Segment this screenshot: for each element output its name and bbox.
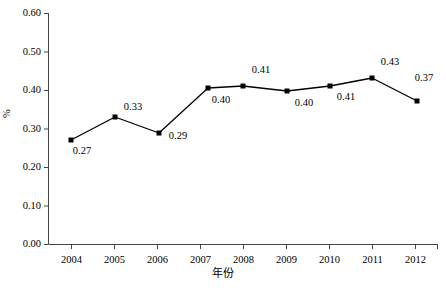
x-tick-label-2012: 2012 <box>394 255 437 266</box>
y-tick-label-040: 0.40 <box>11 85 41 96</box>
y-tick-label-020: 0.20 <box>11 162 41 173</box>
data-label-2009: 0.40 <box>288 98 320 109</box>
y-tick-label-000: 0.00 <box>11 239 41 250</box>
y-tick-label-050: 0.50 <box>11 47 41 58</box>
x-tick-label-2009: 2009 <box>265 255 308 266</box>
y-axis-ticks <box>44 14 49 245</box>
data-point-marker <box>370 76 375 81</box>
x-tick-label-2007: 2007 <box>179 255 222 266</box>
x-tick-label-2004: 2004 <box>50 255 93 266</box>
data-label-2005: 0.33 <box>117 102 149 113</box>
line-chart: 0.60 0.50 0.40 0.30 0.20 0.10 0.00 2004 … <box>0 0 446 293</box>
data-point-marker <box>415 99 420 104</box>
data-point-marker <box>328 84 333 89</box>
y-tick-label-010: 0.10 <box>11 201 41 212</box>
data-point-marker <box>241 84 246 89</box>
data-point-marker <box>157 131 162 136</box>
data-label-2007: 0.40 <box>205 95 237 106</box>
x-tick-label-2006: 2006 <box>136 255 179 266</box>
data-point-marker <box>285 89 290 94</box>
data-point-marker <box>69 138 74 143</box>
y-axis-title: % <box>2 109 13 118</box>
data-point-marker <box>206 86 211 91</box>
data-label-2008: 0.41 <box>245 65 277 76</box>
x-axis-ticks <box>72 245 438 250</box>
data-label-2006: 0.29 <box>162 131 194 142</box>
data-label-2011: 0.43 <box>374 57 406 68</box>
x-tick-label-2011: 2011 <box>351 255 394 266</box>
data-label-2012: 0.37 <box>408 73 440 84</box>
data-label-2004: 0.27 <box>66 146 98 157</box>
data-point-marker <box>113 115 118 120</box>
y-tick-label-060: 0.60 <box>11 8 41 19</box>
x-tick-label-2005: 2005 <box>93 255 136 266</box>
data-label-2010: 0.41 <box>330 92 362 103</box>
x-axis-title: 年份 <box>0 268 446 279</box>
y-tick-label-030: 0.30 <box>11 124 41 135</box>
x-tick-label-2010: 2010 <box>308 255 351 266</box>
x-tick-label-2008: 2008 <box>222 255 265 266</box>
